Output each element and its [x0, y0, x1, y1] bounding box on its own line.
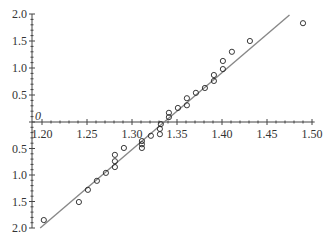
data-point [112, 159, 117, 164]
data-point [76, 199, 81, 204]
y-tick-label: 1.5 [12, 34, 27, 48]
data-point [211, 72, 216, 77]
data-point [247, 38, 252, 43]
y-tick-label: 1.0 [12, 168, 27, 182]
normal-probability-plot: 2.01.51.00.50.51.01.52.01.201.251.301.35… [0, 0, 332, 245]
y-tick-label: 1.5 [12, 195, 27, 209]
origin-label: 0 [35, 109, 41, 123]
x-tick-label: 1.20 [32, 127, 53, 141]
data-point [157, 132, 162, 137]
data-point [184, 96, 189, 101]
x-tick-label: 1.25 [77, 127, 98, 141]
data-point [300, 21, 305, 26]
axes [29, 14, 315, 228]
data-point [112, 164, 117, 169]
y-tick-label: 2.0 [12, 221, 27, 235]
data-point [220, 66, 225, 71]
y-tick-label: 0.5 [12, 88, 27, 102]
x-tick-label: 1.50 [302, 127, 323, 141]
x-tick-label: 1.45 [257, 127, 278, 141]
y-tick-label: 1.0 [12, 61, 27, 75]
data-point [112, 152, 117, 157]
x-tick-label: 1.40 [212, 127, 233, 141]
data-point [220, 58, 225, 63]
data-point [229, 49, 234, 54]
y-tick-label: 2.0 [12, 7, 27, 21]
data-point [157, 126, 162, 131]
data-point [41, 217, 46, 222]
y-tick-label: 0.5 [12, 142, 27, 156]
x-tick-label: 1.30 [122, 127, 143, 141]
data-point [121, 145, 126, 150]
x-tick-label: 1.35 [167, 127, 188, 141]
